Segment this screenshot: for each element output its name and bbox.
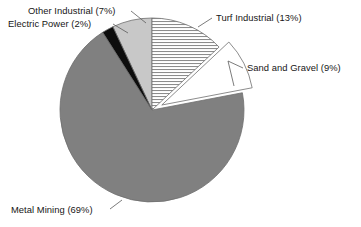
pie-chart-svg: Other Industrial (7%) Electric Power (2%… <box>0 0 361 227</box>
label-turf-industrial: Turf Industrial (13%) <box>216 12 302 23</box>
label-electric-power: Electric Power (2%) <box>8 18 91 29</box>
label-sand-and-gravel: Sand and Gravel (9%) <box>247 62 341 73</box>
pie-chart: Other Industrial (7%) Electric Power (2%… <box>0 0 361 227</box>
label-metal-mining: Metal Mining (69%) <box>11 204 93 215</box>
label-other-industrial: Other Industrial (7%) <box>28 5 116 16</box>
